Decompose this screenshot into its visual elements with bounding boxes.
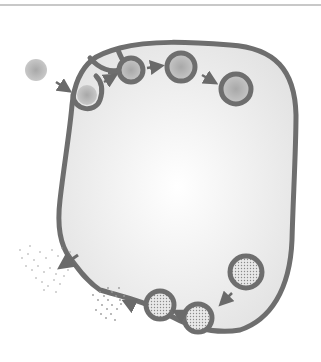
internal-vesicle xyxy=(221,74,251,104)
arrow-icon xyxy=(126,302,132,305)
fusing-vesicle xyxy=(146,291,174,319)
dispersed-content xyxy=(19,245,71,293)
external-particle xyxy=(25,59,47,81)
arrow-icon xyxy=(56,82,68,90)
cell-membrane xyxy=(59,42,296,331)
docking-vesicle xyxy=(184,304,212,332)
secretory-vesicle xyxy=(230,256,262,288)
invaginating-particle xyxy=(77,85,97,105)
pinching-vesicle xyxy=(119,58,143,82)
endocytosis-exocytosis-diagram xyxy=(0,0,321,362)
budded-vesicle xyxy=(167,53,195,81)
